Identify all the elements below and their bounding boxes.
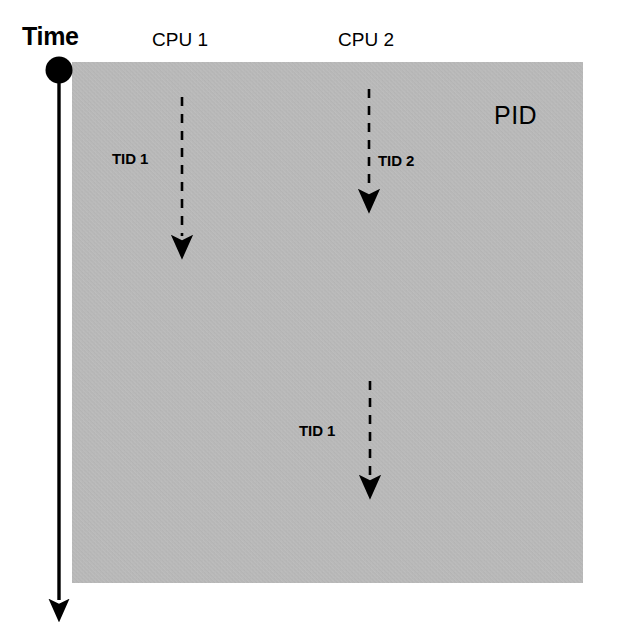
time-axis-label: Time <box>22 24 79 49</box>
time-axis <box>46 57 73 601</box>
column-header-cpu2: CPU 2 <box>338 30 394 49</box>
thread-label-cpu2-tid2: TID 2 <box>378 153 414 168</box>
diagram-canvas: Time CPU 1 CPU 2 PID TID 1 TID 2 TID 1 <box>0 0 619 635</box>
pid-region-label: PID <box>494 103 537 128</box>
column-header-cpu1: CPU 1 <box>152 30 208 49</box>
time-axis-origin-dot <box>46 57 73 84</box>
thread-label-cpu2-tid1: TID 1 <box>299 423 335 438</box>
pid-region <box>72 62 583 583</box>
thread-label-cpu1-tid1: TID 1 <box>112 151 148 166</box>
